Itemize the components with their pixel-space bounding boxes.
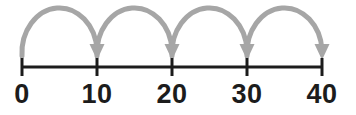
jump-arcs-group	[22, 8, 330, 60]
tick-label-20: 20	[142, 79, 202, 109]
tick-label-0: 0	[0, 79, 52, 109]
jump-arc-path	[22, 8, 97, 56]
jump-arc-path	[172, 8, 247, 56]
jump-arc-30-to-40	[247, 8, 330, 60]
jump-arc-20-to-30	[172, 8, 255, 60]
tick-label-30: 30	[217, 79, 277, 109]
jump-arrowhead-icon	[315, 44, 330, 60]
tick-label-10: 10	[67, 79, 127, 109]
number-line-figure: 0 10 20 30 40	[0, 0, 356, 115]
jump-arc-0-to-10	[22, 8, 105, 60]
jump-arc-path	[97, 8, 172, 56]
tick-label-40: 40	[292, 79, 352, 109]
jump-arc-10-to-20	[97, 8, 180, 60]
jump-arc-path	[247, 8, 322, 56]
